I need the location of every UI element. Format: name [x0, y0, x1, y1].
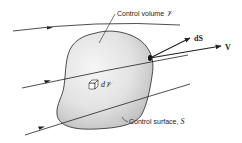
streamline-top [13, 23, 180, 31]
control-volume-label: Control volume 𝒱 [117, 9, 176, 18]
control-surface-label: Control surface, S [129, 117, 184, 126]
diagram-svg: Control volume 𝒱 dS V d𝒱 Control surface… [0, 0, 242, 143]
dS-label: dS [194, 34, 203, 43]
V-vector [150, 46, 221, 58]
control-volume-diagram: Control volume 𝒱 dS V d𝒱 Control surface… [0, 0, 242, 143]
volume-element-cube-icon [89, 80, 98, 89]
V-label: V [225, 43, 231, 52]
